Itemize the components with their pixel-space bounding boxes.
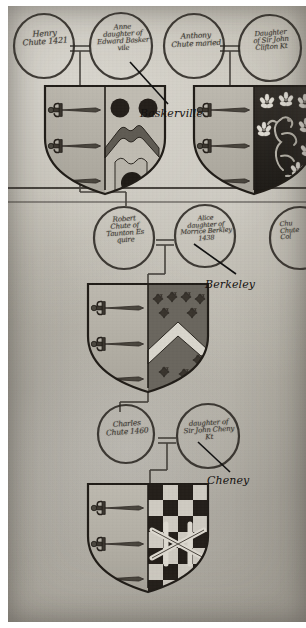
roundel-clifton-daughter [239, 15, 301, 81]
screenshot-root: Henry Chute 1421 Anne daughter of Edward… [0, 0, 306, 628]
annotation-cheney: Cheney [207, 474, 249, 487]
roundel-charles-chute [98, 405, 154, 463]
shield-chute-baskerville [45, 86, 165, 196]
roundel-right-edge [270, 207, 306, 269]
roundel-alice-berkley [175, 205, 235, 267]
roundel-anthony-chute [164, 14, 224, 78]
roundel-henry-chute [14, 14, 74, 78]
shield-chute-cheney [88, 484, 208, 596]
pedigree-graphics [8, 6, 306, 622]
shield-chute-berkeley [88, 284, 208, 394]
roundel-anne-baskerville [90, 13, 152, 79]
roundel-cheny-daughter [177, 404, 239, 468]
annotation-baskerville: Baskerville [140, 107, 203, 120]
shield-chute-clifton [194, 86, 306, 196]
leader-berkeley [194, 244, 236, 274]
manuscript-scan: Henry Chute 1421 Anne daughter of Edward… [8, 6, 306, 622]
annotation-berkeley: Berkeley [205, 278, 255, 291]
roundel-robert-chute [94, 207, 154, 269]
